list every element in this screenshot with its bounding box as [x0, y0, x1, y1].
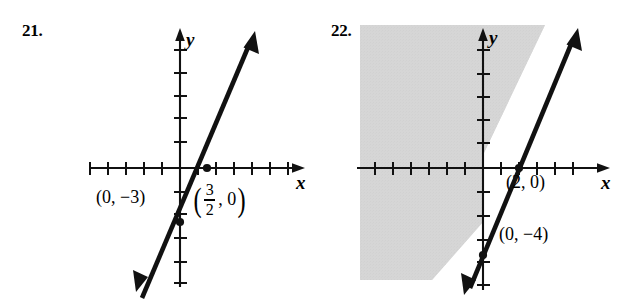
close-paren-21: ) — [238, 186, 246, 214]
y-intercept-label-22: (0, −4) — [499, 225, 548, 243]
coordinate-plane-21 — [0, 0, 314, 303]
fraction-denominator: 2 — [205, 201, 215, 218]
fraction-three-halves: 3 2 — [204, 182, 215, 218]
y-intercept-label-21: (0, −3) — [96, 188, 145, 206]
y-axis-label-21: y — [186, 29, 194, 51]
coordinate-plane-22 — [313, 0, 627, 303]
open-paren-21: ( — [194, 186, 202, 214]
figure-22: 22. — [313, 0, 627, 303]
fraction-numerator: 3 — [205, 182, 215, 199]
x-intercept-label-22: (2, 0) — [506, 173, 545, 191]
point-dot-y-intercept-22 — [479, 251, 487, 259]
y-axis-21 — [175, 28, 185, 287]
point-dot-x-intercept-21 — [203, 164, 211, 172]
x-intercept-label-21: ( 3 2 , 0 ) — [192, 182, 248, 218]
x-axis-label-21: x — [296, 172, 306, 194]
fraction-label-rest: , 0 — [218, 189, 236, 210]
y-axis-label-22: y — [489, 27, 497, 49]
figure-pair-page: 21. — [0, 0, 627, 303]
figure-21: 21. — [0, 0, 314, 303]
x-axis-label-22: x — [601, 172, 611, 194]
point-dot-y-intercept-21 — [176, 218, 184, 226]
point-dot-x-intercept-22 — [515, 164, 523, 172]
graph-line-21 — [133, 31, 259, 298]
